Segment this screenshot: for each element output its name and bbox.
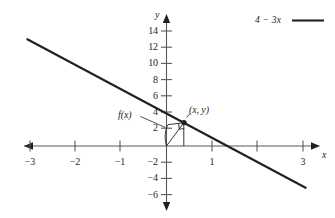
linear-function-figure: 14 12 10 8 6 4 2 −2 −4 −6 −3 −2 −1 1 3 y… <box>0 0 335 218</box>
x-tick-label-1: 1 <box>200 157 224 167</box>
point-coordinate-label: (x, y) <box>189 105 209 115</box>
y-axis-arrow-up <box>163 14 170 23</box>
construction-triangle <box>165 123 184 146</box>
y-tick-label-10: 10 <box>138 58 158 68</box>
x-axis-label: x <box>322 150 326 160</box>
y-axis-label: y <box>155 10 159 20</box>
y-tick-label--4: −4 <box>134 173 158 183</box>
y-tick-label-12: 12 <box>138 42 158 52</box>
x-tick-label-3: 3 <box>291 157 315 167</box>
x-axis-group <box>24 141 320 152</box>
marked-point-dot <box>181 120 186 125</box>
x-tick-label--3: −3 <box>18 157 42 167</box>
y-tick-label--2: −2 <box>134 157 158 167</box>
y-axis-arrow-down <box>163 202 170 211</box>
plot-canvas <box>0 0 335 218</box>
y-tick-label-6: 6 <box>138 91 158 101</box>
y-tick-label-8: 8 <box>138 75 158 85</box>
legend-entry-label: 4 − 3x <box>255 16 281 26</box>
x-axis-arrow-left <box>24 142 33 149</box>
x-tick-label--1: −1 <box>108 157 132 167</box>
y-tick-label-14: 14 <box>138 26 158 36</box>
y-tick-label-2: 2 <box>138 123 158 133</box>
x-axis-arrow-right <box>311 142 320 149</box>
y-tick-label-4: 4 <box>138 107 158 117</box>
function-label-f-of-x: f(x) <box>118 110 131 120</box>
triangle-hypotenuse <box>167 123 184 146</box>
y-tick-label--6: −6 <box>134 190 158 200</box>
x-tick-label--2: −2 <box>63 157 87 167</box>
